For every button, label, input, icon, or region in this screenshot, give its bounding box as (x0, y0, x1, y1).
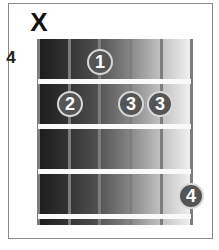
fret-line-3 (38, 169, 191, 174)
string-2 (68, 39, 71, 225)
finger-dot: 4 (178, 183, 204, 209)
start-fret-number: 4 (3, 48, 19, 68)
fretboard (38, 39, 193, 225)
finger-dot: 3 (118, 91, 144, 117)
string-1 (37, 39, 40, 225)
finger-dot: 2 (57, 91, 83, 117)
fret-line-4 (38, 214, 191, 219)
fret-line-2 (38, 124, 191, 129)
finger-dot: 3 (147, 91, 173, 117)
muted-string-marker: X (29, 10, 49, 34)
fret-line-1 (38, 79, 191, 84)
finger-dot: 1 (87, 49, 113, 75)
string-5 (160, 39, 163, 225)
string-4 (129, 39, 132, 225)
